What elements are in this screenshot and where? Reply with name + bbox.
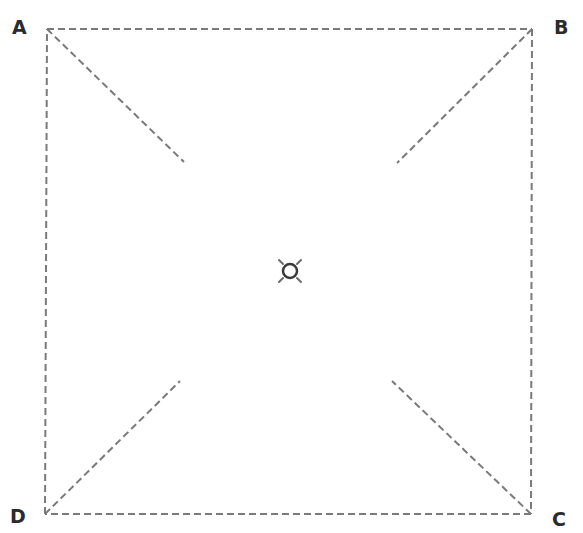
ray-nw (279, 260, 283, 264)
diagonal-from-b (397, 29, 532, 163)
diagonal-from-a (47, 29, 184, 162)
edge-da (45, 29, 47, 514)
edge-bc (531, 29, 532, 514)
center-circle (283, 264, 297, 278)
diagonal-segments (45, 29, 532, 514)
ray-sw (279, 278, 283, 282)
diagram-canvas (0, 0, 583, 533)
corner-label-b: B (554, 18, 568, 37)
corner-label-a: A (12, 18, 27, 37)
corner-label-c: C (552, 510, 566, 529)
diagonal-from-c (392, 381, 531, 514)
sun-symbol-icon (279, 260, 301, 282)
ray-se (297, 278, 301, 282)
diagonal-from-d (45, 381, 180, 514)
corner-label-d: D (10, 507, 26, 526)
ray-ne (297, 260, 301, 264)
